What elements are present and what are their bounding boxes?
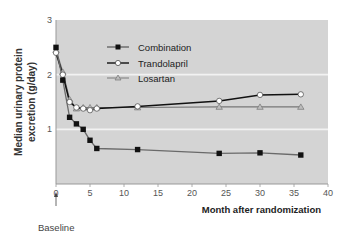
x-tick-label: 40: [323, 188, 333, 198]
baseline-label: Baseline: [38, 222, 74, 233]
data-point-combination: [74, 121, 79, 126]
data-point-combination: [81, 127, 86, 132]
data-point-combination: [217, 151, 222, 156]
data-point-trandolapril: [53, 50, 58, 55]
chart: 0510152025303540 123 Median urinary prot…: [0, 0, 349, 241]
x-axis-label: Month after randomization: [202, 204, 321, 215]
data-point-combination: [53, 45, 58, 50]
filled-square-marker-icon: [116, 45, 121, 50]
x-ticks: 0510152025303540: [53, 184, 333, 198]
x-tick-label: 25: [221, 188, 231, 198]
data-point-combination: [257, 150, 262, 155]
legend-label-combination: Combination: [138, 42, 191, 53]
data-point-trandolapril: [60, 72, 65, 77]
data-point-trandolapril: [67, 99, 72, 104]
data-point-combination: [87, 138, 92, 143]
y-axis-label-line2: excretion (g/day): [26, 62, 37, 142]
data-point-trandolapril: [298, 92, 303, 97]
data-point-trandolapril: [81, 106, 86, 111]
data-point-combination: [67, 115, 72, 120]
data-point-trandolapril: [135, 104, 140, 109]
x-tick-label: 10: [119, 188, 129, 198]
y-axis-label-line1: Median urinary protein: [13, 48, 24, 156]
y-tick-label: 1: [47, 124, 52, 134]
legend-label-trandolapril: Trandolapril: [138, 58, 188, 69]
x-tick-label: 20: [187, 188, 197, 198]
open-circle-marker-icon: [115, 60, 120, 65]
data-point-trandolapril: [217, 98, 222, 103]
y-tick-label: 3: [47, 15, 52, 25]
y-ticks: 123: [47, 15, 52, 134]
legend-label-losartan: Losartan: [138, 73, 175, 84]
data-point-combination: [94, 146, 99, 151]
data-point-trandolapril: [74, 105, 79, 110]
data-point-combination: [298, 152, 303, 157]
data-point-trandolapril: [87, 108, 92, 113]
data-point-combination: [135, 147, 140, 152]
x-tick-label: 5: [87, 188, 92, 198]
data-point-combination: [60, 77, 65, 82]
x-tick-label: 15: [153, 188, 163, 198]
x-tick-label: 35: [289, 188, 299, 198]
y-tick-label: 2: [47, 70, 52, 80]
data-point-trandolapril: [94, 106, 99, 111]
x-tick-label: 30: [255, 188, 265, 198]
data-point-trandolapril: [257, 92, 262, 97]
